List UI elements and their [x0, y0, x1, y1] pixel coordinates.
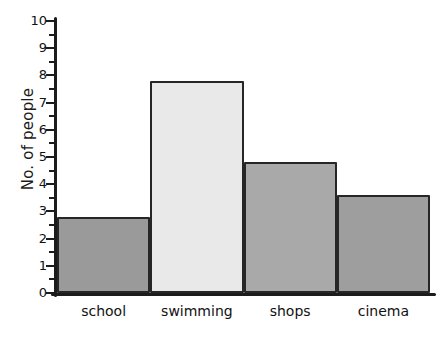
y-tick-label-5: 5 [23, 150, 47, 163]
y-tick-3 [46, 210, 55, 212]
y-tick-minor [49, 88, 55, 90]
bar-swimming [150, 81, 243, 293]
y-tick-label-3: 3 [23, 204, 47, 217]
bar-cinema [337, 195, 430, 293]
y-tick-8 [46, 74, 55, 76]
y-tick-label-4: 4 [23, 177, 47, 190]
x-axis-label-shops: shops [244, 303, 337, 319]
y-tick-0 [46, 292, 55, 294]
y-tick-7 [46, 102, 55, 104]
bar-shops [244, 162, 337, 293]
y-tick-1 [46, 265, 55, 267]
y-tick-label-10: 10 [23, 14, 47, 27]
y-tick-label-1: 1 [23, 259, 47, 272]
y-tick-minor [49, 170, 55, 172]
y-tick-label-8: 8 [23, 68, 47, 81]
y-tick-minor [49, 278, 55, 280]
y-tick-5 [46, 156, 55, 158]
y-tick-2 [46, 238, 55, 240]
y-tick-4 [46, 183, 55, 185]
x-axis-label-school: school [57, 303, 150, 319]
y-tick-minor [49, 34, 55, 36]
y-tick-minor [49, 142, 55, 144]
y-tick-10 [46, 20, 55, 22]
y-tick-minor [49, 115, 55, 117]
y-tick-label-0: 0 [23, 286, 47, 299]
x-axis-label-swimming: swimming [150, 303, 243, 319]
bar-school [57, 217, 150, 293]
y-tick-label-2: 2 [23, 232, 47, 245]
bar-chart: No. of people 012345678910 schoolswimmin… [0, 0, 439, 343]
y-tick-label-7: 7 [23, 96, 47, 109]
y-tick-minor [49, 61, 55, 63]
x-axis-label-cinema: cinema [337, 303, 430, 319]
y-tick-9 [46, 47, 55, 49]
y-tick-label-9: 9 [23, 41, 47, 54]
y-tick-minor [49, 197, 55, 199]
x-axis-line [51, 293, 436, 296]
plot-area: 012345678910 schoolswimmingshopscinema [57, 21, 430, 293]
y-tick-label-6: 6 [23, 123, 47, 136]
y-tick-minor [49, 251, 55, 253]
y-tick-6 [46, 129, 55, 131]
y-tick-minor [49, 224, 55, 226]
